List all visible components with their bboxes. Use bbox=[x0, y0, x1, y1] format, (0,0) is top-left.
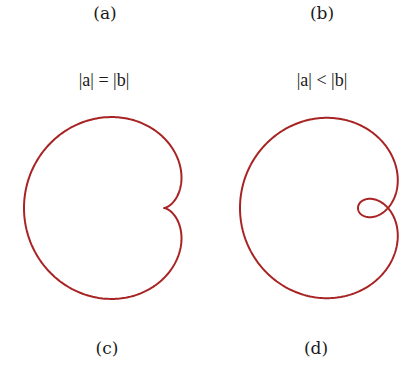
curves-canvas bbox=[0, 0, 403, 385]
label-d: (d) bbox=[304, 338, 328, 358]
limacon-loop-curve bbox=[240, 118, 398, 298]
label-c: (c) bbox=[96, 338, 119, 358]
cardioid-curve bbox=[24, 117, 182, 299]
